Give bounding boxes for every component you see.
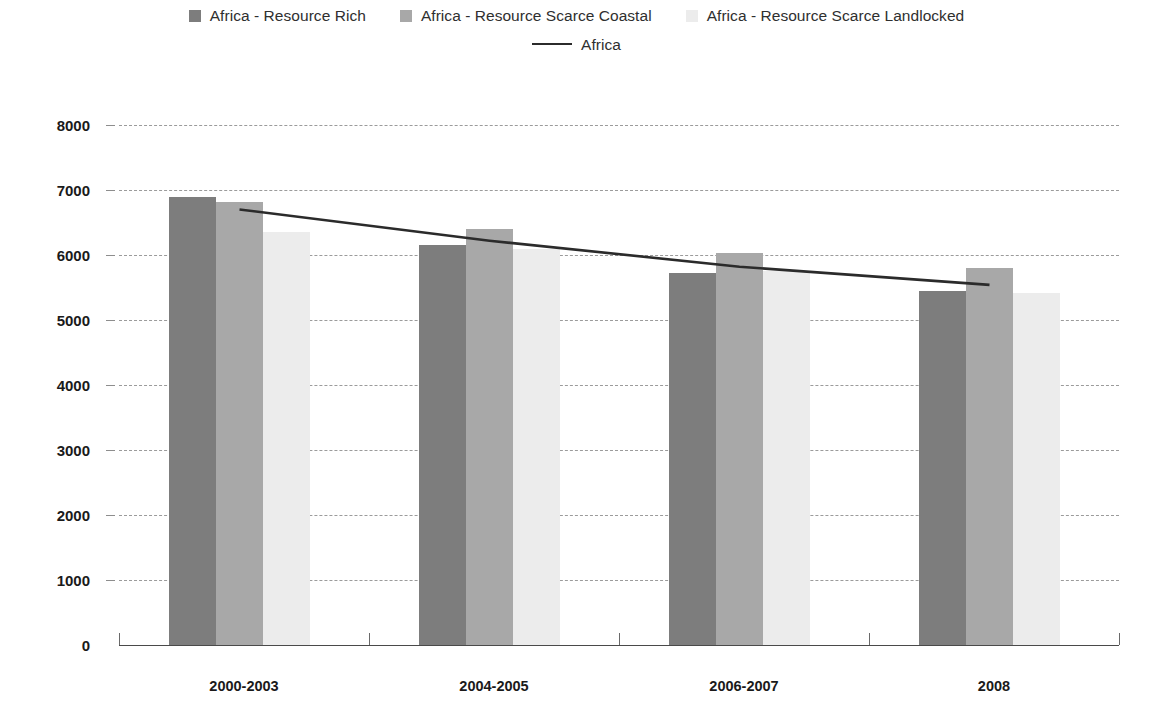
bar[interactable] bbox=[216, 202, 263, 645]
y-tick-mark bbox=[106, 385, 115, 386]
bar[interactable] bbox=[669, 273, 716, 645]
gridline bbox=[119, 190, 1119, 191]
y-axis-tick-label: 1000 bbox=[28, 572, 90, 589]
bar[interactable] bbox=[169, 197, 216, 646]
y-tick-mark bbox=[106, 515, 115, 516]
y-tick-mark bbox=[106, 190, 115, 191]
y-tick-mark bbox=[106, 125, 115, 126]
bar[interactable] bbox=[263, 232, 310, 645]
y-tick-mark bbox=[106, 580, 115, 581]
x-axis-category-label: 2004-2005 bbox=[459, 678, 528, 694]
gridline bbox=[119, 125, 1119, 126]
bar[interactable] bbox=[419, 245, 466, 645]
bar[interactable] bbox=[919, 291, 966, 645]
bar[interactable] bbox=[1013, 293, 1060, 645]
y-tick-mark bbox=[106, 320, 115, 321]
y-tick-mark bbox=[106, 255, 115, 256]
bar[interactable] bbox=[763, 271, 810, 645]
y-tick-mark bbox=[106, 450, 115, 451]
x-axis-category-label: 2000-2003 bbox=[209, 678, 278, 694]
bar[interactable] bbox=[716, 253, 763, 645]
x-tick-mark bbox=[619, 633, 620, 645]
x-tick-mark bbox=[869, 633, 870, 645]
y-axis-tick-label: 6000 bbox=[28, 247, 90, 264]
y-axis-tick-label: 4000 bbox=[28, 377, 90, 394]
x-axis-category-label: 2008 bbox=[978, 678, 1010, 694]
x-axis-category-label: 2006-2007 bbox=[709, 678, 778, 694]
y-axis-tick-label: 5000 bbox=[28, 312, 90, 329]
africa-trend-line bbox=[240, 210, 990, 285]
bar[interactable] bbox=[966, 268, 1013, 645]
x-tick-mark bbox=[119, 633, 120, 645]
x-tick-mark bbox=[369, 633, 370, 645]
y-axis-tick-label: 2000 bbox=[28, 507, 90, 524]
bar[interactable] bbox=[513, 249, 560, 645]
x-tick-mark bbox=[1119, 633, 1120, 645]
chart-plot-area: 010002000300040005000600070008000 2000-2… bbox=[0, 0, 1153, 721]
y-axis-tick-label: 8000 bbox=[28, 117, 90, 134]
bar[interactable] bbox=[466, 229, 513, 645]
y-axis-tick-label: 7000 bbox=[28, 182, 90, 199]
y-axis-tick-label: 0 bbox=[28, 637, 90, 654]
x-axis-line bbox=[119, 645, 1119, 646]
y-axis-tick-label: 3000 bbox=[28, 442, 90, 459]
